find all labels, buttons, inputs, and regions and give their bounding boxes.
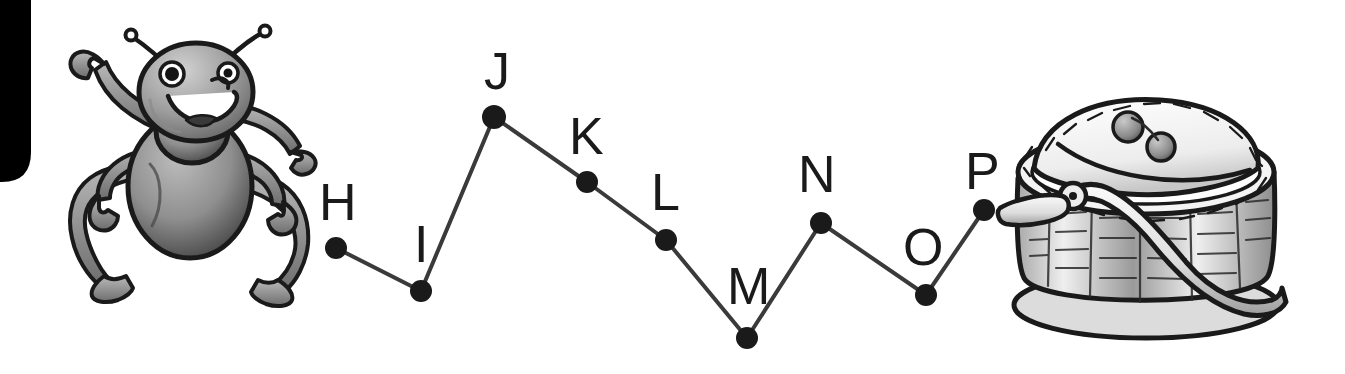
connecting-line (336, 117, 984, 338)
dot-label-h: H (319, 176, 357, 228)
berry-one (1113, 112, 1143, 142)
ant-pupil-right (224, 69, 233, 78)
ant-illustration (70, 26, 316, 307)
dot-l[interactable] (655, 229, 677, 251)
dot-k[interactable] (576, 171, 598, 193)
dot-label-n: N (798, 148, 836, 200)
dot-n[interactable] (810, 212, 832, 234)
ant-pupil-left (165, 67, 179, 81)
picnic-basket-illustration (998, 100, 1286, 338)
dot-j[interactable] (482, 105, 506, 129)
dot-label-j: J (484, 45, 510, 97)
worksheet-page: HIJKLMNOP (0, 0, 1345, 374)
dot-m[interactable] (736, 327, 758, 349)
dot-o[interactable] (915, 284, 937, 306)
ant-tongue (186, 115, 216, 126)
dot-label-m: M (727, 260, 770, 312)
dot-label-l: L (651, 166, 680, 218)
antenna-tip-right-icon (260, 26, 271, 37)
antenna-tip-left-icon (126, 30, 137, 41)
dot-label-i: I (414, 218, 428, 270)
dot-label-o: O (903, 221, 943, 273)
dot-label-k: K (569, 110, 604, 162)
berry-two (1147, 133, 1175, 161)
dot-i[interactable] (410, 280, 432, 302)
dot-p[interactable] (973, 199, 995, 221)
handle-pivot-rivet (1069, 192, 1077, 200)
black-corner-block (0, 0, 31, 182)
dot-h[interactable] (325, 237, 347, 259)
dot-label-p: P (965, 145, 1000, 197)
